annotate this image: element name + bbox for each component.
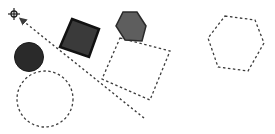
dashed-square[interactable]	[102, 38, 170, 100]
crosshair-icon	[8, 8, 20, 20]
solid-circle[interactable]	[15, 43, 44, 72]
solid-hexagon[interactable]	[116, 12, 146, 41]
solid-square[interactable]	[60, 19, 99, 57]
diagram-canvas	[0, 0, 275, 134]
dashed-hexagon[interactable]	[208, 16, 264, 71]
dashed-circle[interactable]	[17, 71, 73, 127]
